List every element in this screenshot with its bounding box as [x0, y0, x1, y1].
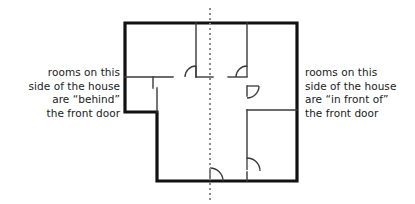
caption-right-in-front-of-front-door: rooms on this side of the house are “in …: [305, 66, 415, 120]
front-door-arc: [210, 168, 223, 181]
door-right-lower-arc: [247, 158, 260, 171]
door-upper-left-arc: [185, 66, 196, 77]
exterior-wall-outline: [125, 23, 297, 181]
diagram-canvas: rooms on this side of the house are “beh…: [0, 0, 415, 204]
caption-left-behind-front-door: rooms on this side of the house are “beh…: [10, 66, 120, 120]
door-upper-right-arc: [236, 66, 247, 77]
door-right-middle-arc: [247, 86, 259, 98]
